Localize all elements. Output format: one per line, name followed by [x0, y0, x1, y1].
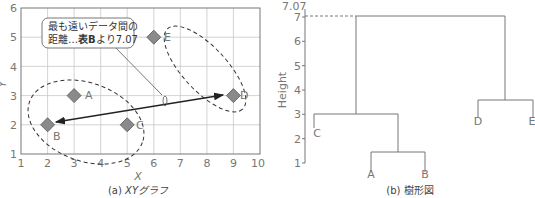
svg-text:C: C	[313, 127, 321, 140]
dendro-branches	[314, 16, 533, 172]
svg-text:E: E	[164, 31, 171, 44]
svg-text:4: 4	[294, 84, 301, 97]
svg-text:6: 6	[150, 157, 157, 170]
point-a	[67, 89, 81, 103]
svg-text:D: D	[240, 89, 248, 102]
svg-text:10: 10	[251, 157, 265, 170]
dendrogram: 1 2 3 4 5 6 7 7.07 Height C A B D	[276, 0, 535, 196]
svg-text:3: 3	[10, 90, 17, 103]
svg-text:2: 2	[294, 133, 301, 146]
caption-a: (a) XYグラフ	[108, 185, 169, 196]
svg-text:D: D	[474, 115, 482, 128]
point-c	[120, 118, 134, 132]
dendro-y-label: Height	[276, 71, 289, 108]
svg-text:7: 7	[177, 157, 184, 170]
top-height-label: 7.07	[282, 0, 307, 13]
svg-text:C: C	[136, 119, 144, 132]
dendro-y-ticks: 1 2 3 4 5 6 7	[294, 11, 301, 170]
leaf-labels: C A B D E	[313, 115, 535, 181]
svg-text:1: 1	[18, 157, 25, 170]
svg-text:2: 2	[10, 119, 17, 132]
svg-text:E: E	[529, 115, 535, 128]
svg-text:4: 4	[10, 61, 17, 74]
svg-text:A: A	[85, 89, 93, 102]
callout-leader	[112, 44, 162, 95]
xy-graph: 1 2 3 4 5 6 1 2 3 4 5 6 7 8 9 10 X Y	[0, 2, 265, 196]
figure: 1 2 3 4 5 6 1 2 3 4 5 6 7 8 9 10 X Y	[0, 0, 535, 198]
x-axis-ticks: 1 2 3 4 5 6 7 8 9 10	[18, 157, 266, 170]
svg-text:5: 5	[294, 60, 301, 73]
svg-text:6: 6	[294, 35, 301, 48]
svg-text:1: 1	[10, 148, 17, 161]
cluster-abc-ellipse	[16, 65, 155, 179]
svg-text:3: 3	[294, 108, 301, 121]
svg-text:6: 6	[10, 2, 17, 15]
x-axis-label: X	[133, 170, 142, 183]
svg-text:9: 9	[230, 157, 237, 170]
svg-text:1: 1	[294, 157, 301, 170]
caption-b: (b) 樹形図	[386, 184, 433, 196]
svg-text:最も遠いデータ間の: 最も遠いデータ間の	[48, 20, 138, 32]
svg-text:8: 8	[203, 157, 210, 170]
point-d	[226, 89, 240, 103]
y-axis-label: Y	[0, 79, 9, 87]
svg-text:B: B	[421, 168, 429, 181]
y-axis-ticks: 1 2 3 4 5 6	[10, 2, 17, 161]
svg-text:A: A	[367, 168, 375, 181]
annotation-callout: 最も遠いデータ間の 距離…表Bより7.07	[42, 18, 138, 48]
point-e	[147, 30, 161, 44]
svg-text:2: 2	[44, 157, 51, 170]
svg-text:B: B	[53, 130, 61, 143]
svg-text:距離…表Bより7.07: 距離…表Bより7.07	[48, 33, 138, 45]
svg-text:5: 5	[10, 31, 17, 44]
